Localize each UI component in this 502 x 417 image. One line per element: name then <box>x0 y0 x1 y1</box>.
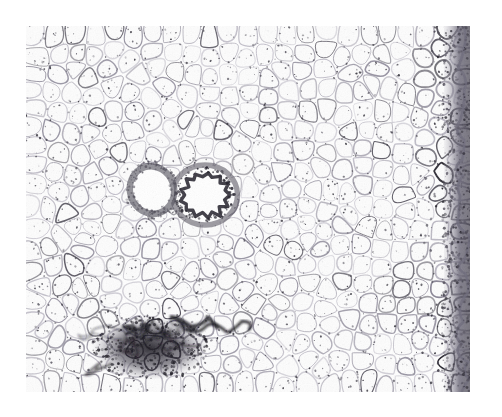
micrograph-figure: Lung histology micrograph — alveolar par… <box>0 0 502 417</box>
film-grain <box>26 26 470 392</box>
lung-histology-micrograph: Lung histology micrograph — alveolar par… <box>0 0 502 417</box>
film-grain-layer <box>26 26 470 392</box>
